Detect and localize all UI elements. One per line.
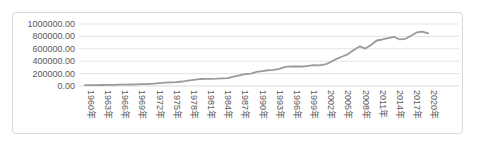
x-tick-label: 1993年 xyxy=(275,90,286,119)
x-tick-label: 2005年 xyxy=(343,90,354,119)
x-tick-label: 2020年 xyxy=(429,90,440,119)
x-tick-label: 2011年 xyxy=(378,90,389,118)
y-tick-label: 800000.00 xyxy=(32,31,75,41)
y-tick-label: 200000.00 xyxy=(32,69,75,79)
x-tick-label: 1966年 xyxy=(120,90,131,119)
data-series-line xyxy=(85,32,428,86)
y-tick-label: 1000000.00 xyxy=(27,19,75,29)
x-tick-label: 1975年 xyxy=(172,90,183,119)
x-tick-label: 2014年 xyxy=(395,90,406,119)
x-tick-label: 1987年 xyxy=(240,90,251,119)
y-tick-label: 0.00 xyxy=(57,81,75,91)
screenshot-root: 1000000.00800000.00600000.00400000.00200… xyxy=(0,0,477,144)
x-tick-label: 1963年 xyxy=(103,90,114,119)
x-tick-label: 2008年 xyxy=(361,90,372,119)
x-tick-label: 2002年 xyxy=(326,90,337,119)
x-tick-label: 1990年 xyxy=(258,90,269,119)
x-tick-label: 1984年 xyxy=(223,90,234,119)
x-tick-label: 1996年 xyxy=(292,90,303,119)
x-tick-label: 1981年 xyxy=(206,90,217,119)
chart-card: 1000000.00800000.00600000.00400000.00200… xyxy=(12,12,463,134)
x-tick-label: 1960年 xyxy=(86,90,97,119)
line-chart: 1000000.00800000.00600000.00400000.00200… xyxy=(13,13,462,133)
y-tick-label: 600000.00 xyxy=(32,44,75,54)
x-tick-label: 1978年 xyxy=(189,90,200,119)
x-tick-label: 1999年 xyxy=(309,90,320,119)
x-tick-label: 1969年 xyxy=(137,90,148,119)
x-tick-label: 1972年 xyxy=(155,90,166,119)
y-tick-label: 400000.00 xyxy=(32,56,75,66)
x-tick-label: 2017年 xyxy=(412,90,423,119)
